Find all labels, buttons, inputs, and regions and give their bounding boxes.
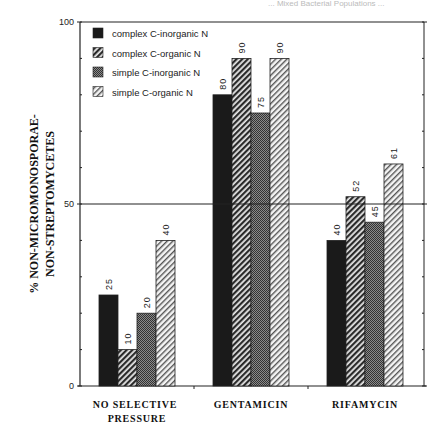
bar-value-label: 20 xyxy=(142,296,152,308)
bar xyxy=(346,197,365,386)
legend-label: complex C-organic N xyxy=(112,48,201,59)
y-tick-label: 0 xyxy=(69,381,74,391)
bar xyxy=(251,113,270,386)
y-axis-label: % NON-MICROMONOSPORAE- NON-STREPTOMYCETE… xyxy=(27,114,57,294)
legend-label: complex C-inorganic N xyxy=(112,28,208,39)
page-header: ... Mixed Bacterial Populations ... xyxy=(268,0,385,8)
legend-swatch xyxy=(93,28,103,38)
category-label: NO SELECTIVE xyxy=(93,399,177,410)
bar-value-label: 40 xyxy=(161,223,171,235)
category-labels: NO SELECTIVEPRESSUREGENTAMICINRIFAMYCIN xyxy=(93,399,398,424)
bar-value-label: 40 xyxy=(332,223,342,235)
legend: complex C-inorganic Ncomplex C-organic N… xyxy=(93,28,208,98)
bar-value-label: 10 xyxy=(123,333,133,345)
bar xyxy=(118,350,137,386)
legend-swatch xyxy=(93,48,103,58)
legend-label: simple C-organic N xyxy=(112,87,193,98)
bar-value-label: 90 xyxy=(237,41,247,53)
y-tick-label: 100 xyxy=(59,17,74,27)
bar xyxy=(327,240,346,386)
bar-value-label: 45 xyxy=(370,205,380,217)
bar xyxy=(156,240,175,386)
bar-value-label: 80 xyxy=(218,78,228,90)
bar xyxy=(365,222,384,386)
svg-text:NON-STREPTOMYCETES: NON-STREPTOMYCETES xyxy=(43,131,57,277)
legend-swatch xyxy=(93,67,103,77)
category-label: RIFAMYCIN xyxy=(332,399,398,410)
bar-value-label: 75 xyxy=(256,96,266,108)
bar-value-label: 52 xyxy=(351,180,361,192)
y-tick-label: 50 xyxy=(64,199,74,209)
bar xyxy=(232,58,251,386)
bar-value-label: 90 xyxy=(275,41,285,53)
bar-chart: ... Mixed Bacterial Populations ... % NO… xyxy=(0,0,445,435)
category-label: PRESSURE xyxy=(108,413,167,424)
legend-swatch xyxy=(93,87,103,97)
bar-value-label: 25 xyxy=(104,278,114,290)
bar xyxy=(270,58,289,386)
category-label: GENTAMICIN xyxy=(214,399,288,410)
bar xyxy=(99,295,118,386)
bar xyxy=(137,313,156,386)
svg-text:% NON-MICROMONOSPORAE-: % NON-MICROMONOSPORAE- xyxy=(27,114,41,294)
y-tick-labels: 050100 xyxy=(59,17,74,391)
bar-value-label: 61 xyxy=(389,147,399,159)
bar xyxy=(213,95,232,386)
bar xyxy=(384,164,403,386)
legend-label: simple C-inorganic N xyxy=(112,67,200,78)
